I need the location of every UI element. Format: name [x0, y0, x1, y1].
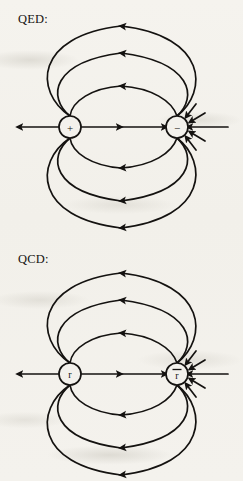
qed-sink-node: −: [166, 116, 188, 138]
qed-field-line-upper-middle: [58, 53, 188, 116]
qed-field-line-upper-inner: [70, 86, 177, 116]
qed-source-symbol: +: [67, 122, 73, 134]
qed-field-line-lower-inner: [70, 138, 177, 168]
qcd-source-node: r: [59, 363, 81, 385]
qcd-field-line-lower-middle: [58, 385, 188, 448]
qcd-field-diagram: r r: [0, 240, 243, 481]
qed-field-diagram: + −: [0, 0, 243, 240]
qed-sink-symbol: −: [174, 122, 180, 134]
qed-panel: QED:: [0, 0, 243, 240]
qcd-sink-node: r: [166, 363, 188, 385]
figure-page: QED:: [0, 0, 243, 481]
qcd-field-line-upper-middle: [58, 300, 188, 363]
qed-field-line-lower-middle: [58, 138, 188, 201]
qcd-field-line-upper-inner: [70, 333, 177, 363]
qed-source-node: +: [59, 116, 81, 138]
qcd-panel: QCD:: [0, 240, 243, 481]
qcd-field-line-lower-inner: [70, 385, 177, 415]
